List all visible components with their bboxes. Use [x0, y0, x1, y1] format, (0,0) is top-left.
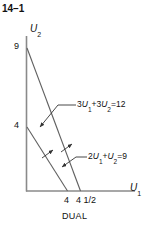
- x-axis-label-subscript: 1: [137, 190, 141, 197]
- direction-arrow-line2: [61, 144, 72, 152]
- y-axis-label: U2: [30, 24, 41, 36]
- x-tick-label-4-and-a-half: 4 1/2: [76, 196, 96, 205]
- annotation-1-sub-2: 2: [107, 106, 111, 113]
- figure-caption: DUAL: [62, 212, 87, 221]
- annotation-2-sub-1: 1: [99, 158, 103, 165]
- y-tick-label-4: 4: [14, 121, 19, 130]
- plot-area: [0, 0, 153, 242]
- figure-number-label: 14–1: [2, 4, 24, 14]
- annotation-1-equals: =12: [111, 99, 125, 109]
- x-tick-label-4: 4: [64, 196, 69, 205]
- annotation-1-var-1: U: [82, 99, 88, 109]
- x-axis-label: U1: [130, 183, 141, 195]
- leader-line-annotation-2: [62, 157, 87, 167]
- annotation-constraint-1: 3U1+3U2=12: [77, 100, 125, 111]
- constraint-line-3u1-3u2-12: [27, 127, 68, 191]
- annotation-2-var-2: U: [107, 151, 113, 161]
- annotation-2-var-1: U: [93, 151, 99, 161]
- figure-dual-graph: 14–1 U2 U1 9 4 4 4 1/2 DUAL 3U1+3U2=12 2…: [0, 0, 153, 242]
- annotation-2-equals: =9: [117, 151, 127, 161]
- y-axis-label-subscript: 2: [37, 31, 41, 38]
- annotation-2-sub-2: 2: [114, 158, 118, 165]
- annotation-1-sub-1: 1: [88, 106, 92, 113]
- annotation-constraint-2: 2U1+U2=9: [88, 152, 127, 163]
- y-tick-label-9: 9: [14, 42, 19, 51]
- leader-line-annotation-1: [40, 105, 76, 127]
